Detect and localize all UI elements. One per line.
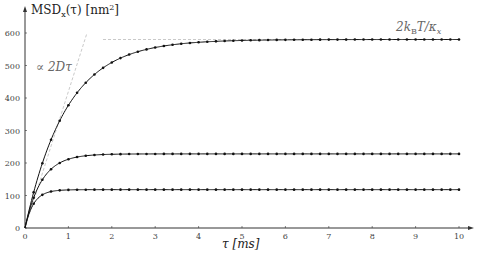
x-tick-label: 3 (153, 232, 158, 241)
data-point-marker (84, 188, 87, 191)
data-point-marker (336, 188, 339, 191)
data-point-marker (93, 73, 96, 76)
data-point-marker (50, 168, 53, 171)
data-point-marker (102, 67, 105, 70)
data-point-marker (163, 153, 166, 156)
data-point-marker (388, 153, 391, 156)
data-point-marker (171, 153, 174, 156)
data-point-marker (293, 38, 296, 41)
data-point-marker (232, 39, 235, 42)
data-point-marker (310, 38, 313, 41)
data-point-marker (301, 38, 304, 41)
x-tick-label: 6 (283, 232, 288, 241)
data-point-marker (414, 153, 417, 156)
data-point-marker (449, 188, 452, 191)
data-point-marker (336, 38, 339, 41)
data-point-marker (423, 188, 426, 191)
data-point-marker (397, 38, 400, 41)
data-point-marker (58, 119, 61, 122)
data-point-marker (449, 153, 452, 156)
data-point-marker (32, 202, 35, 205)
data-point-marker (180, 42, 183, 45)
data-point-marker (258, 153, 261, 156)
data-point-marker (189, 153, 192, 156)
data-point-marker (102, 153, 105, 156)
data-point-marker (171, 188, 174, 191)
x-tick-label: 10 (454, 232, 464, 241)
msd-chart: 0123456789100100200300400500600 MSDx(τ) … (0, 0, 479, 264)
data-point-marker (371, 188, 374, 191)
data-point-marker (319, 188, 322, 191)
axes: 0123456789100100200300400500600 (5, 6, 474, 241)
data-point-marker (371, 153, 374, 156)
x-tick-label: 7 (326, 232, 331, 241)
data-point-marker (206, 40, 209, 43)
data-point-marker (414, 38, 417, 41)
y-tick-label: 0 (15, 224, 20, 233)
data-point-marker (310, 188, 313, 191)
data-point-marker (432, 188, 435, 191)
slope-annotation: ∝ 2Dτ (36, 60, 72, 74)
data-point-marker (84, 81, 87, 84)
y-tick-label: 400 (5, 94, 20, 103)
data-point-marker (440, 188, 443, 191)
data-point-marker (267, 39, 270, 42)
y-axis-label: MSDx(τ) [nm2] (31, 3, 119, 19)
data-point-marker (284, 153, 287, 156)
data-point-marker (111, 61, 114, 64)
data-point-marker (449, 38, 452, 41)
data-point-marker (362, 153, 365, 156)
data-point-marker (189, 188, 192, 191)
data-point-marker (145, 188, 148, 191)
data-point-marker (137, 153, 140, 156)
data-point-marker (362, 38, 365, 41)
data-point-marker (241, 188, 244, 191)
data-point-marker (180, 153, 183, 156)
data-point-marker (41, 194, 44, 197)
y-tick-label: 300 (5, 127, 20, 136)
data-point-marker (241, 39, 244, 42)
plateau-annotation: 2kBT/κx (395, 20, 442, 36)
data-point-marker (119, 57, 122, 60)
data-point-marker (163, 188, 166, 191)
data-point-marker (41, 162, 44, 165)
data-point-marker (119, 153, 122, 156)
data-point-marker (275, 188, 278, 191)
data-point-marker (197, 188, 200, 191)
curve-mid-line (25, 154, 459, 228)
data-point-marker (163, 45, 166, 48)
data-point-marker (310, 153, 313, 156)
data-point-marker (293, 188, 296, 191)
data-point-marker (371, 38, 374, 41)
data-point-marker (397, 153, 400, 156)
data-point-marker (76, 92, 79, 95)
data-point-marker (241, 153, 244, 156)
data-point-marker (215, 40, 218, 43)
data-point-marker (258, 188, 261, 191)
data-point-marker (458, 38, 461, 41)
data-point-marker (275, 153, 278, 156)
data-point-marker (41, 178, 44, 181)
data-point-marker (76, 156, 79, 159)
x-tick-label: 2 (109, 232, 114, 241)
data-point-marker (301, 153, 304, 156)
data-point-marker (414, 188, 417, 191)
data-point-marker (432, 153, 435, 156)
data-point-marker (458, 153, 461, 156)
data-point-marker (354, 153, 357, 156)
data-point-marker (319, 153, 322, 156)
data-point-marker (423, 38, 426, 41)
data-point-marker (197, 41, 200, 44)
guide-lines (25, 33, 459, 228)
data-point-marker (137, 188, 140, 191)
y-tick-label: 100 (5, 192, 20, 201)
data-point-marker (301, 188, 304, 191)
data-point-marker (128, 53, 131, 56)
y-tick-label: 500 (5, 62, 20, 71)
data-point-marker (67, 104, 70, 107)
data-point-marker (154, 188, 157, 191)
x-tick-label: 1 (66, 232, 71, 241)
data-point-marker (58, 162, 61, 165)
data-point-marker (128, 188, 131, 191)
curves (25, 38, 460, 228)
